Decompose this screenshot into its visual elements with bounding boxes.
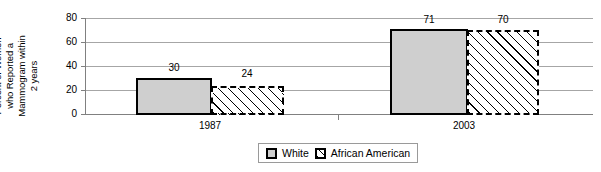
- mammogram-bar-chart: Percent of Women who Reported a Mammogra…: [0, 0, 601, 172]
- legend-entry-african-american[interactable]: African American: [315, 147, 410, 159]
- y-tick-mark-20: [81, 90, 85, 91]
- y-axis-title-line-4: 2 years: [28, 35, 40, 116]
- x-tick-label-1987: 1987: [187, 120, 233, 132]
- y-axis-title: Percent of Women who Reported a Mammogra…: [0, 16, 44, 136]
- y-axis-title-line-2: who Reported a: [4, 35, 16, 116]
- y-tick-mark-80: [81, 18, 85, 19]
- legend-entry-white[interactable]: White: [266, 147, 309, 159]
- legend-label-african-american: African American: [331, 147, 410, 159]
- legend: White African American: [258, 143, 418, 163]
- data-label-white-2003: 71: [411, 14, 447, 25]
- y-tick-mark-40: [81, 66, 85, 67]
- y-tick-label-20: 20: [47, 85, 77, 95]
- legend-swatch-african-american-icon: [315, 148, 326, 159]
- y-tick-label-60: 60: [47, 37, 77, 47]
- data-label-african-american-1987: 24: [229, 68, 265, 79]
- y-axis-title-line-3: Mammogram within: [16, 35, 28, 116]
- y-tick-mark-0: [81, 114, 85, 115]
- y-tick-label-0: 0: [47, 109, 77, 119]
- legend-swatch-white-icon: [266, 148, 277, 159]
- y-tick-mark-60: [81, 42, 85, 43]
- y-tick-label-40: 40: [47, 61, 77, 71]
- data-label-white-1987: 30: [156, 62, 192, 73]
- bar-white-2003[interactable]: [390, 29, 468, 115]
- x-tick-mark-middle: [338, 115, 339, 120]
- data-label-african-american-2003: 70: [485, 14, 521, 25]
- legend-label-white: White: [282, 147, 309, 159]
- x-tick-label-2003: 2003: [441, 120, 487, 132]
- bar-african-american-2003[interactable]: [467, 30, 539, 115]
- bar-african-american-1987[interactable]: [211, 86, 284, 115]
- y-tick-label-80: 80: [47, 13, 77, 23]
- bar-white-1987[interactable]: [136, 78, 212, 115]
- y-axis-line: [85, 18, 86, 115]
